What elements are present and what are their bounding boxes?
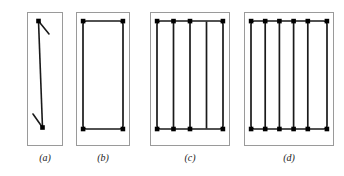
panel-b-label: (b)	[72, 152, 134, 164]
panel-c-rebar-dot-t3	[188, 19, 193, 24]
panel-c-rebar-dot-t1	[155, 19, 160, 24]
panel-c: (c)	[146, 0, 234, 176]
panel-a-drawing	[21, 0, 69, 160]
panel-d-rebar-dot-t3	[277, 19, 282, 24]
panel-b-rectangular-tie	[83, 21, 123, 129]
panel-d-concrete-outline	[245, 13, 334, 146]
panel-d-rectangular-tie	[251, 21, 327, 129]
figure-root: (a) (b) (c)	[0, 0, 344, 176]
panel-b-rebar-dot-tr	[121, 19, 126, 24]
panel-c-rebar-dot-b3	[188, 127, 193, 132]
panel-c-drawing	[146, 0, 234, 160]
panel-a-label: (a)	[21, 152, 69, 164]
panel-d-rebar-dot-b4	[291, 127, 296, 132]
panel-c-label: (c)	[146, 152, 234, 164]
panel-a-rebar-dot-top	[36, 19, 41, 24]
panel-b-concrete-outline	[77, 13, 130, 146]
panel-a-hooked-bar	[39, 21, 43, 128]
panel-b-rebar-dot-br	[121, 127, 126, 132]
panel-c-rebar-dot-b1	[155, 127, 160, 132]
panel-d-rebar-dot-t2	[263, 19, 268, 24]
panel-d-rebar-dot-t6	[325, 19, 330, 24]
panel-c-rebar-dot-b4	[221, 127, 226, 132]
panel-b-rebar-dot-bl	[81, 127, 86, 132]
panel-d-drawing	[240, 0, 338, 160]
panel-d-rebar-dot-t5	[306, 19, 311, 24]
panel-d-rebar-dot-b3	[277, 127, 282, 132]
panel-d-label: (d)	[240, 152, 338, 164]
panel-a-rebar-dot-bottom	[40, 125, 45, 130]
panel-b: (b)	[72, 0, 134, 176]
panel-d-rebar-dot-b5	[306, 127, 311, 132]
panel-b-drawing	[72, 0, 134, 160]
panel-d-rebar-dot-b6	[325, 127, 330, 132]
panel-d-rebar-dot-b2	[263, 127, 268, 132]
panel-c-rebar-dot-t2	[171, 19, 176, 24]
panel-d: (d)	[240, 0, 338, 176]
panel-a-concrete-outline	[28, 13, 63, 146]
panel-c-rebar-dot-b2	[171, 127, 176, 132]
panel-d-rebar-dot-b1	[249, 127, 254, 132]
panel-d-rebar-dot-t4	[291, 19, 296, 24]
panel-c-rebar-dot-t4	[221, 19, 226, 24]
panel-d-rebar-dot-t1	[249, 19, 254, 24]
panel-a: (a)	[21, 0, 69, 176]
panel-b-rebar-dot-tl	[81, 19, 86, 24]
